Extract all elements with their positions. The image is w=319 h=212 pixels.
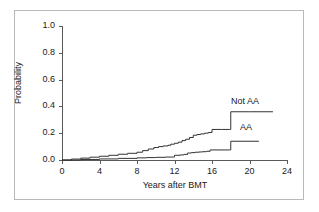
figure-container: Probability Years after BMT Not AA AA 0.… [0, 0, 319, 212]
y-tick-label: 0.4 [33, 100, 55, 110]
y-tick-label: 0.2 [33, 127, 55, 137]
y-axis-label: Probability [13, 48, 23, 118]
x-axis-label: Years after BMT [62, 180, 288, 190]
data-series-lines [62, 112, 273, 160]
x-tick-label: 20 [241, 166, 259, 176]
x-tick-label: 0 [53, 166, 71, 176]
y-tick-label: 0.8 [33, 47, 55, 57]
series-line-not-aa [62, 112, 273, 160]
x-tick-label: 16 [203, 166, 221, 176]
y-tick-label: 0.6 [33, 74, 55, 84]
y-tick-label: 0.0 [33, 154, 55, 164]
x-tick-label: 4 [91, 166, 109, 176]
y-tick-label: 1.0 [33, 20, 55, 30]
axes-lines [62, 26, 287, 161]
x-tick-label: 8 [128, 166, 146, 176]
x-tick-label: 12 [166, 166, 184, 176]
series-label-not-aa: Not AA [231, 96, 259, 106]
x-tick-label: 24 [278, 166, 296, 176]
series-label-aa: AA [240, 122, 252, 132]
